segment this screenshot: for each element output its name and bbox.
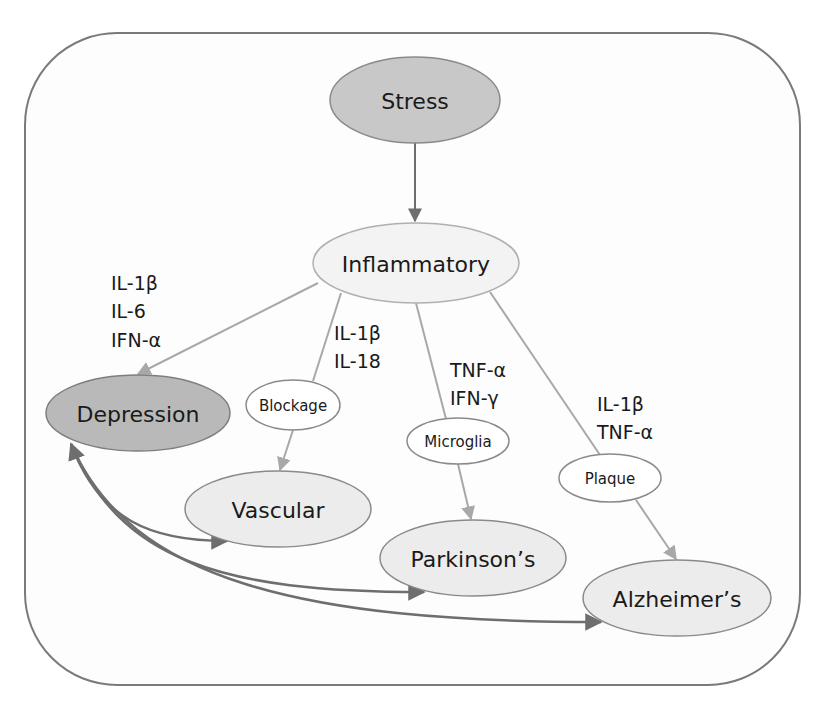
node-depression: Depression (46, 375, 230, 451)
node-parkinsons: Parkinson’s (380, 520, 566, 596)
node-inflammatory: Inflammatory (313, 223, 519, 303)
node-alzheimers-label: Alzheimer’s (613, 587, 742, 612)
cytokine-label: IFN-α (111, 329, 161, 351)
node-stress-label: Stress (381, 89, 449, 114)
cytokine-label: TNF-α (596, 421, 653, 443)
node-parkinsons-label: Parkinson’s (411, 547, 536, 572)
node-blockage: Blockage (246, 380, 340, 430)
cytokine-label: IL-6 (111, 300, 146, 322)
node-vascular: Vascular (185, 471, 371, 547)
node-stress: Stress (330, 57, 500, 143)
node-vascular-label: Vascular (232, 498, 326, 523)
node-blockage-label: Blockage (259, 397, 327, 415)
node-depression-label: Depression (77, 402, 200, 427)
cytokine-label: IFN-γ (450, 387, 499, 409)
cytokine-label: IL-18 (334, 350, 381, 372)
node-microglia: Microglia (407, 418, 509, 464)
node-alzheimers: Alzheimer’s (583, 560, 771, 636)
node-microglia-label: Microglia (424, 433, 491, 451)
cytokine-label: IL-1β (597, 393, 644, 415)
cytokine-label: IL-1β (334, 322, 381, 344)
diagram-canvas: Stress Inflammatory Depression Blockage … (0, 0, 821, 705)
cytokine-label: IL-1β (111, 272, 158, 294)
node-plaque: Plaque (559, 454, 661, 502)
node-inflammatory-label: Inflammatory (342, 252, 490, 277)
node-plaque-label: Plaque (585, 470, 636, 488)
cytokine-label: TNF-α (449, 359, 506, 381)
